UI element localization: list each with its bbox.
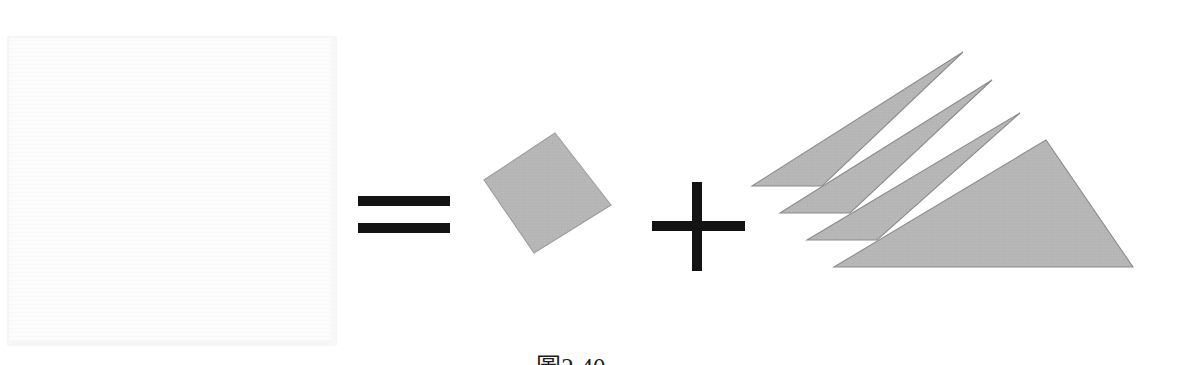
equals-sign bbox=[358, 196, 450, 233]
figure-caption: 圖2.40 bbox=[536, 352, 606, 365]
large-faint-square-right-edge bbox=[331, 37, 336, 345]
figure-caption-row: 圖2.40 bbox=[0, 320, 1184, 365]
equals-sign-top-bar bbox=[358, 196, 450, 206]
equals-sign-bottom-bar bbox=[358, 223, 450, 233]
plus-sign bbox=[652, 182, 745, 271]
tilted-square-group bbox=[484, 133, 611, 253]
triangle-stack bbox=[752, 52, 1133, 267]
large-faint-square bbox=[8, 37, 336, 345]
plus-sign-vertical-bar bbox=[692, 182, 702, 271]
figure-canvas bbox=[0, 0, 1184, 365]
result-square-group bbox=[8, 37, 336, 345]
figure-container: 圖2.40 bbox=[0, 0, 1184, 365]
tilted-gray-square bbox=[484, 133, 611, 253]
